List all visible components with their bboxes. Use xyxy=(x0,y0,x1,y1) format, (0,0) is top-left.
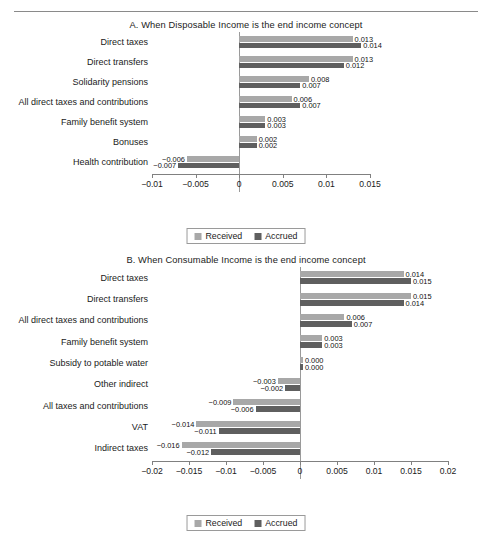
x-axis-tick-label: −0.01 xyxy=(215,466,237,476)
category-label: Bonuses xyxy=(113,137,148,147)
bar-received xyxy=(300,271,404,277)
panel-b-plot: Direct taxesDirect transfersAll direct t… xyxy=(0,267,492,487)
bar-value-label: −0.011 xyxy=(194,426,216,435)
bar-value-label: −0.012 xyxy=(186,447,209,456)
bar-received xyxy=(300,357,303,363)
x-axis-tick-label: 0.02 xyxy=(440,466,457,476)
x-axis-tick xyxy=(337,461,338,465)
panel-b-axes: −0.02−0.015−0.01−0.00500.0050.010.0150.0… xyxy=(152,267,448,479)
legend-label-accrued: Accrued xyxy=(265,231,297,241)
bar-accrued xyxy=(178,163,239,169)
bar-value-label: 0.003 xyxy=(267,121,286,130)
x-axis-tick-label: 0.015 xyxy=(400,466,422,476)
bar-value-label: −0.007 xyxy=(153,161,176,170)
x-axis-tick xyxy=(152,174,153,178)
legend-item-received: Received xyxy=(195,518,243,528)
legend-label-received: Received xyxy=(206,518,243,528)
x-axis-tick xyxy=(300,461,301,465)
category-label: Other indirect xyxy=(94,379,148,389)
category-label: Direct transfers xyxy=(87,294,148,304)
bar-value-label: 0.000 xyxy=(305,362,324,371)
x-axis-tick-label: 0.015 xyxy=(359,179,381,189)
x-axis-tick xyxy=(239,174,240,178)
bar-accrued xyxy=(300,278,411,284)
bar-accrued xyxy=(300,364,303,370)
bar-value-label: −0.002 xyxy=(260,383,283,392)
bar-value-label: 0.007 xyxy=(354,319,373,328)
panel-a: A. When Disposable Income is the end inc… xyxy=(0,18,492,246)
x-axis-tick xyxy=(370,174,371,178)
legend-item-accrued: Accrued xyxy=(254,231,297,241)
bar-received xyxy=(300,293,411,299)
category-label: Solidarity pensions xyxy=(72,77,148,87)
category-label: Indirect taxes xyxy=(94,443,148,453)
bar-accrued xyxy=(239,43,361,49)
bar-value-label: −0.016 xyxy=(157,440,180,449)
panel-a-title: A. When Disposable Income is the end inc… xyxy=(0,18,492,32)
panel-a-plot: Direct taxesDirect transfersSolidarity p… xyxy=(0,32,492,192)
category-label: Health contribution xyxy=(73,157,148,167)
bar-received xyxy=(239,96,291,102)
x-axis-tick-label: −0.005 xyxy=(250,466,277,476)
bar-value-label: 0.002 xyxy=(259,141,278,150)
bar-accrued xyxy=(211,449,300,455)
bar-value-label: −0.006 xyxy=(231,405,254,414)
bar-accrued xyxy=(300,321,352,327)
bar-value-label: 0.014 xyxy=(363,41,382,50)
category-label: All direct taxes and contributions xyxy=(18,97,148,107)
category-label: All direct taxes and contributions xyxy=(18,315,148,325)
panel-b-legend: Received Accrued xyxy=(187,515,306,531)
category-label: Family benefit system xyxy=(61,337,148,347)
x-axis-line xyxy=(152,174,370,175)
x-axis-tick-label: 0 xyxy=(298,466,303,476)
category-label: All taxes and contributions xyxy=(43,401,148,411)
panel-b: B. When Consumable Income is the end inc… xyxy=(0,253,492,541)
legend-item-received: Received xyxy=(195,231,243,241)
bar-received xyxy=(300,335,322,341)
x-axis-tick xyxy=(374,461,375,465)
x-axis-tick-label: 0.005 xyxy=(272,179,294,189)
accrued-swatch-icon xyxy=(254,233,261,240)
bar-accrued xyxy=(239,143,256,149)
bar-value-label: −0.014 xyxy=(172,419,195,428)
category-label: Family benefit system xyxy=(61,117,148,127)
bar-value-label: 0.012 xyxy=(346,61,365,70)
x-axis-tick xyxy=(411,461,412,465)
legend-label-received: Received xyxy=(206,231,243,241)
header-rule xyxy=(14,11,478,12)
bar-value-label: 0.007 xyxy=(302,81,321,90)
x-axis-tick-label: 0.01 xyxy=(366,466,383,476)
bar-received xyxy=(239,36,352,42)
bar-accrued xyxy=(300,342,322,348)
bar-accrued xyxy=(239,83,300,89)
bar-accrued xyxy=(256,406,300,412)
bar-value-label: −0.009 xyxy=(209,398,232,407)
bar-value-label: 0.003 xyxy=(324,341,343,350)
bar-received xyxy=(239,136,256,142)
category-label: Direct taxes xyxy=(100,37,148,47)
category-label: Direct taxes xyxy=(100,273,148,283)
x-axis-tick xyxy=(263,461,264,465)
legend-item-accrued: Accrued xyxy=(254,518,297,528)
x-axis-tick-label: −0.02 xyxy=(141,466,163,476)
x-axis-tick xyxy=(448,461,449,465)
bar-accrued xyxy=(239,103,300,109)
bar-received xyxy=(187,156,239,162)
bar-value-label: 0.007 xyxy=(302,101,321,110)
bar-received xyxy=(239,116,265,122)
x-axis-tick-label: 0 xyxy=(237,179,242,189)
bar-value-label: 0.015 xyxy=(413,277,432,286)
bar-accrued xyxy=(219,428,300,434)
legend-label-accrued: Accrued xyxy=(265,518,297,528)
x-axis-tick-label: −0.015 xyxy=(176,466,203,476)
received-swatch-icon xyxy=(195,233,202,240)
bar-accrued xyxy=(239,63,344,69)
x-axis-tick-label: −0.01 xyxy=(141,179,163,189)
x-axis-tick xyxy=(152,461,153,465)
x-axis-tick xyxy=(226,461,227,465)
x-axis-tick-label: −0.005 xyxy=(182,179,209,189)
bar-value-label: 0.014 xyxy=(406,298,425,307)
x-axis-tick-label: 0.005 xyxy=(326,466,348,476)
x-axis-tick xyxy=(283,174,284,178)
bar-accrued xyxy=(239,123,265,129)
